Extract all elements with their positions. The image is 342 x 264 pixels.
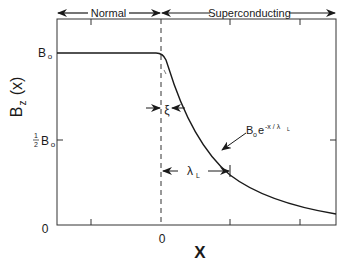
svg-text:L: L: [196, 172, 200, 179]
y-tick-b0: B o: [38, 46, 53, 61]
curve-formula-annotation: B o e -x / λ L: [222, 123, 290, 150]
y-axis-title: B z (x): [8, 77, 28, 118]
lambda-label: λ: [187, 164, 193, 178]
svg-text:B: B: [8, 107, 25, 118]
field-curve: [57, 53, 336, 214]
penetration-diagram: Normal Superconducting B o 1 2 B: [0, 0, 342, 264]
superconducting-region-label: Superconducting: [208, 7, 291, 19]
x-axis-title: X: [194, 243, 206, 262]
svg-text:(x): (x): [8, 77, 25, 96]
onset-mark: [164, 70, 166, 74]
svg-text:o: o: [48, 52, 53, 61]
svg-text:e: e: [258, 124, 264, 136]
superconducting-region-arrow: Superconducting: [162, 7, 335, 19]
svg-text:-x / λ: -x / λ: [265, 123, 281, 130]
normal-region-arrow: Normal: [58, 7, 160, 19]
svg-text:1: 1: [34, 132, 38, 139]
svg-text:z: z: [17, 101, 28, 106]
plot-frame: [57, 19, 336, 225]
svg-text:L: L: [287, 126, 290, 132]
x-tick-zero: 0: [159, 232, 166, 246]
svg-text:o: o: [253, 131, 257, 138]
top-ticks: [91, 19, 300, 25]
svg-text:B: B: [38, 46, 46, 60]
xi-label: ξ: [164, 103, 170, 117]
y-tick-zero: 0: [42, 222, 49, 236]
svg-text:o: o: [51, 140, 56, 149]
y-tick-half-b0: 1 2 B o: [33, 132, 56, 149]
coherence-length-annotation: ξ: [146, 103, 185, 117]
svg-text:B: B: [41, 134, 49, 148]
normal-region-label: Normal: [91, 7, 126, 19]
svg-text:2: 2: [34, 141, 38, 148]
bottom-ticks: [91, 219, 300, 225]
